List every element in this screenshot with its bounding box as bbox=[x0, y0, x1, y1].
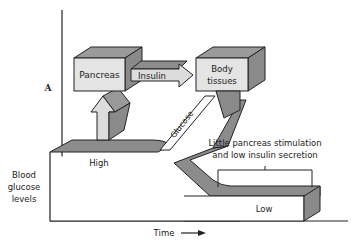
y-axis-label-line2: glucose bbox=[8, 182, 41, 192]
high-level-band bbox=[50, 140, 170, 152]
glucose-insulin-diagram: Pancreas Insulin Body tissues Glucose Li… bbox=[0, 0, 355, 243]
body-tissues-label-line2: tissues bbox=[207, 76, 237, 86]
annotation-line1: Little pancreas stimulation bbox=[208, 138, 321, 148]
insulin-label: Insulin bbox=[138, 71, 166, 81]
time-arrow-icon bbox=[198, 230, 206, 236]
annotation-line2: and low insulin secretion bbox=[212, 150, 317, 160]
low-label: Low bbox=[256, 204, 273, 214]
y-axis-label-line3: levels bbox=[12, 194, 37, 204]
low-level-block bbox=[184, 196, 304, 221]
y-axis-label-line1: Blood bbox=[12, 170, 36, 180]
x-axis-label: Time bbox=[153, 228, 175, 238]
body-tissues-box bbox=[196, 58, 248, 91]
annotation-bracket bbox=[218, 170, 312, 187]
body-tissues-label-line1: Body bbox=[211, 64, 232, 74]
panel-label: A bbox=[44, 83, 53, 93]
pancreas-label: Pancreas bbox=[79, 70, 120, 80]
high-label: High bbox=[89, 158, 109, 168]
